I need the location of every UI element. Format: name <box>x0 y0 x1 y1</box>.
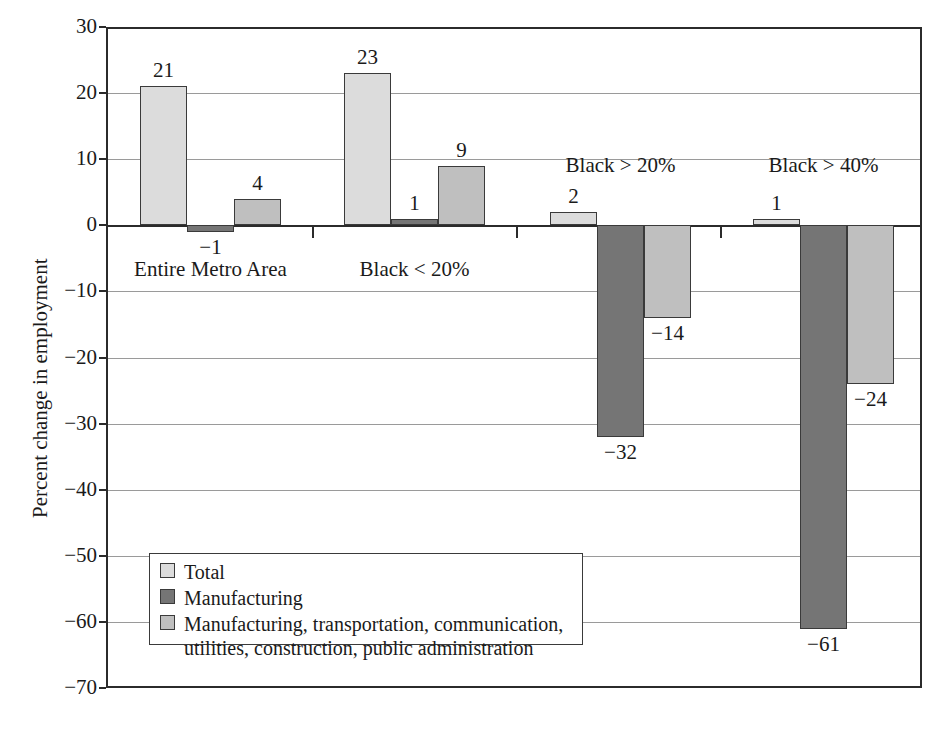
y-tick-label: 0 <box>87 214 98 235</box>
bar-value-label: 4 <box>214 173 301 194</box>
bar-value-label: −1 <box>167 237 254 258</box>
bar-manufacturing-group-4 <box>800 225 847 628</box>
bar-mtcucp-group-1 <box>234 199 281 225</box>
y-tick-mark <box>99 290 106 292</box>
y-axis-title: Percent change in employment <box>28 258 53 518</box>
y-tick-label: −70 <box>64 677 97 698</box>
gridline <box>108 424 920 425</box>
legend-item-manufacturing: Manufacturing <box>160 586 582 612</box>
bar-value-label: −24 <box>827 389 914 410</box>
chart-figure: Percent change in employment 3020100−10−… <box>0 0 947 733</box>
bar-manufacturing-group-1 <box>187 225 234 232</box>
y-tick-label: 20 <box>76 82 97 103</box>
group-label-2: Black < 20% <box>285 259 545 280</box>
y-tick-mark <box>99 158 106 160</box>
gridline <box>108 490 920 491</box>
legend-item-mtcucp: Manufacturing, transportation, communica… <box>160 612 582 660</box>
bar-mtcucp-group-3 <box>644 225 691 318</box>
y-tick-label: −20 <box>64 347 97 368</box>
y-tick-mark <box>99 687 106 689</box>
group-separator-tick <box>516 225 518 238</box>
y-tick-mark <box>99 357 106 359</box>
y-tick-label: −50 <box>64 545 97 566</box>
y-tick-label: −60 <box>64 611 97 632</box>
bar-total-group-4 <box>753 219 800 226</box>
legend-item-total: Total <box>160 560 582 586</box>
y-tick-mark <box>99 26 106 28</box>
plot-area: 21−1423192−32−141−61−24 Entire Metro Are… <box>106 27 922 688</box>
y-tick-mark <box>99 489 106 491</box>
y-tick-mark <box>99 555 106 557</box>
bar-value-label: 23 <box>324 47 411 68</box>
y-tick-mark <box>99 92 106 94</box>
y-tick-label: 30 <box>76 16 97 37</box>
legend-label-mtcucp-line1: Manufacturing, transportation, communica… <box>184 612 563 636</box>
bar-value-label: 21 <box>120 60 207 81</box>
bar-total-group-1 <box>140 86 187 225</box>
legend-swatch-mtcucp-icon <box>160 615 175 630</box>
group-label-4: Black > 40% <box>694 155 947 176</box>
y-tick-mark <box>99 224 106 226</box>
y-tick-label: 10 <box>76 148 97 169</box>
legend-swatch-total-icon <box>160 563 175 578</box>
y-tick-label: −40 <box>64 479 97 500</box>
y-tick-mark <box>99 423 106 425</box>
y-tick-label: −30 <box>64 413 97 434</box>
gridline <box>108 358 920 359</box>
group-separator-tick <box>312 225 314 238</box>
legend-label-mtcucp-line2: utilities, construction, public administ… <box>184 636 582 660</box>
group-separator-tick <box>720 225 722 238</box>
legend-label-total: Total <box>184 560 225 584</box>
bar-value-label: 1 <box>733 193 820 214</box>
bar-value-label: −32 <box>577 442 664 463</box>
chart-legend: Total Manufacturing Manufacturing, trans… <box>149 553 583 645</box>
bar-manufacturing-group-2 <box>391 219 438 226</box>
legend-label-manufacturing: Manufacturing <box>184 586 303 610</box>
bar-value-label: 2 <box>530 186 617 207</box>
bar-value-label: 1 <box>371 193 458 214</box>
bar-value-label: −14 <box>624 323 711 344</box>
y-tick-label: −10 <box>64 280 97 301</box>
bar-total-group-3 <box>550 212 597 225</box>
bar-value-label: −61 <box>780 634 867 655</box>
gridline <box>108 93 920 94</box>
gridline <box>108 291 920 292</box>
legend-swatch-manufacturing-icon <box>160 589 175 604</box>
bar-mtcucp-group-4 <box>847 225 894 384</box>
y-tick-mark <box>99 621 106 623</box>
